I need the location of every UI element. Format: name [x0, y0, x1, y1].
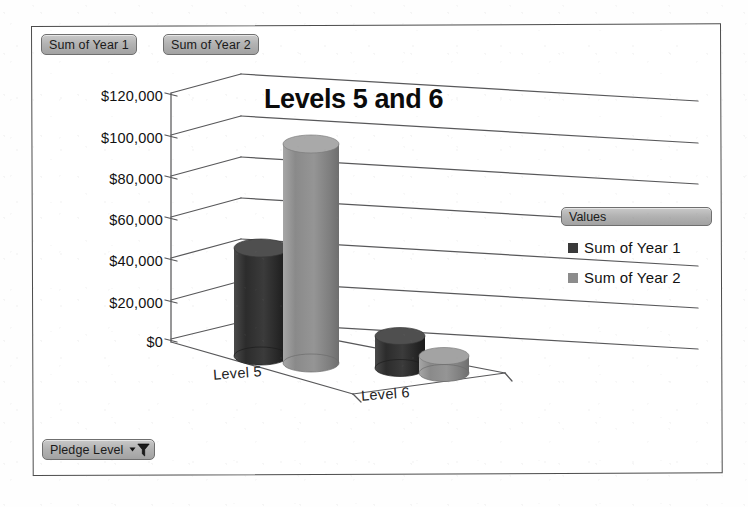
y-axis-tick-label: $20,000	[48, 295, 163, 311]
chart-title: Levels 5 and 6	[264, 84, 443, 115]
field-button-label: Sum of Year 2	[171, 38, 251, 52]
chevron-down-icon	[129, 446, 136, 453]
legend-item[interactable]: Sum of Year 1	[568, 239, 712, 256]
filter-funnel-icon	[137, 443, 150, 457]
field-button-label: Sum of Year 1	[49, 38, 129, 52]
y-axis-tick-label: $100,000	[48, 130, 163, 146]
y-axis-tick-label: $40,000	[48, 253, 163, 269]
legend-swatch-sum-of-year-2	[568, 273, 578, 283]
legend-swatch-sum-of-year-1	[568, 243, 578, 253]
field-button-pledge-level[interactable]: Pledge Level	[42, 439, 155, 460]
filter-dropdown-control[interactable]	[129, 443, 150, 457]
y-axis-tick-label: $0	[48, 334, 163, 350]
legend-header-label: Values	[569, 210, 606, 224]
chart-legend: Values Sum of Year 1 Sum of Year 2	[561, 207, 712, 286]
y-axis-tick-label: $120,000	[48, 88, 163, 104]
y-axis-tick-label: $80,000	[48, 171, 163, 187]
y-axis-tick-label: $60,000	[48, 212, 163, 228]
legend-item[interactable]: Sum of Year 2	[568, 269, 712, 286]
legend-label: Sum of Year 1	[584, 239, 681, 256]
category-label-level-5: Level 5	[213, 363, 263, 382]
field-button-sum-of-year-2[interactable]: Sum of Year 2	[163, 34, 259, 55]
category-label-level-6: Level 6	[361, 384, 411, 403]
field-button-sum-of-year-1[interactable]: Sum of Year 1	[41, 34, 137, 55]
legend-label: Sum of Year 2	[584, 269, 681, 286]
field-button-label: Pledge Level	[50, 443, 123, 457]
legend-field-button-values[interactable]: Values	[561, 207, 712, 226]
